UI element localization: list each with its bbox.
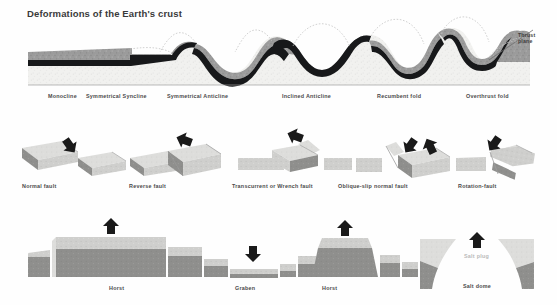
caption-monocline: Monocline [48, 93, 77, 99]
caption-rotation-fault: Rotation-fault [458, 183, 497, 189]
oblique-slip-fault-block [356, 135, 450, 178]
horst-left-arrow [103, 218, 119, 234]
salt-dome-arrow [469, 232, 485, 248]
graben-block [230, 246, 278, 278]
fault-blocks-group [22, 126, 536, 180]
horst-right-arrow [337, 220, 353, 236]
geology-diagram-figure: Deformations of the Earth's crust Monocl… [0, 0, 557, 305]
page-title: Deformations of the Earth's crust [27, 8, 182, 19]
thrust-plane-line-2: plane [518, 38, 533, 44]
horst-graben-group [28, 218, 534, 289]
salt-dome [420, 232, 534, 289]
caption-graben: Graben [235, 285, 255, 291]
caption-overthrust-fold: Overthrust fold [466, 93, 509, 99]
horst-right [312, 220, 378, 277]
step-blocks-mid [280, 256, 316, 277]
salt-dome-flank-right-upper [498, 239, 534, 268]
diagram-graphics [0, 0, 557, 305]
rotation-fault-block [456, 133, 536, 180]
hg-block-edge-left [28, 257, 50, 277]
caption-symmetrical-anticline: Symmetrical Anticline [167, 93, 228, 99]
normal-fault-block [22, 135, 126, 176]
caption-horst-right: Horst [322, 285, 337, 291]
caption-wrench-fault: Transcurrent or Wrench fault [232, 183, 313, 189]
caption-inclined-anticline: Inclined Anticline [282, 93, 331, 99]
reverse-fault-block [130, 130, 221, 176]
caption-salt-plug: Salt plug [464, 253, 489, 259]
caption-normal-fault: Normal fault [22, 183, 56, 189]
caption-horst-left: Horst [109, 285, 124, 291]
caption-recumbent-fold: Recumbent fold [377, 93, 421, 99]
caption-oblique-slip-fault: Oblique-slip normal fault [338, 183, 408, 189]
graben-arrow [245, 246, 261, 262]
caption-reverse-fault: Reverse fault [129, 183, 166, 189]
wrench-fault-block [238, 126, 352, 172]
caption-salt-dome: Salt dome [463, 283, 491, 289]
thrust-plane-line-1: Thrust [518, 32, 535, 38]
annotation-thrust-plane: Thrust plane [518, 32, 535, 45]
step-blocks-right [380, 255, 418, 277]
overthrust-lower-wedge [492, 62, 530, 78]
step-blocks-left [168, 247, 228, 277]
fold-section-group [28, 17, 533, 87]
horst-left [52, 218, 166, 277]
caption-symmetrical-syncline: Symmetrical Syncline [86, 93, 147, 99]
